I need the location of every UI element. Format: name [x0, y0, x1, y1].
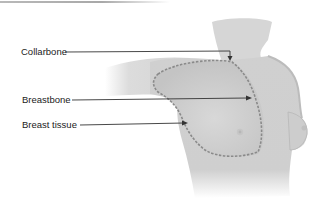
torso-illustration [0, 0, 324, 213]
label-collarbone: Collarbone [21, 47, 67, 57]
breast-right [288, 112, 307, 150]
neck [212, 18, 272, 62]
label-breast-tissue: Breast tissue [22, 120, 77, 130]
label-breastbone: Breastbone [22, 95, 71, 105]
leader-breast-tissue [80, 121, 188, 126]
